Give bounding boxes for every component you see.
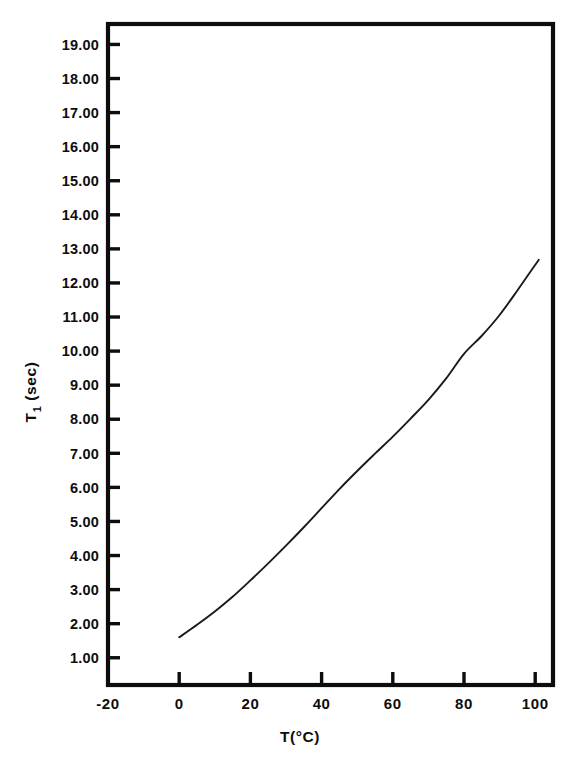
y-tick-label: 9.00 [70,377,99,393]
x-axis-title: T(°C) [280,728,320,745]
x-tick-label: 80 [455,695,473,712]
y-axis-title-unit: (sec) [22,362,39,406]
y-axis-ticks [109,44,120,657]
y-tick-label: 11.00 [63,309,100,325]
y-tick-label: 1.00 [70,650,99,666]
y-tick-label: 18.00 [62,71,99,87]
y-axis-title: T1 (sec) [22,362,43,423]
x-axis-tick-labels: 020406080100-20 [96,695,548,712]
x-tick-label: 20 [241,695,259,712]
y-tick-label: 15.00 [62,173,99,189]
x-tick-label: 100 [522,695,549,712]
chart-plot: 1.002.003.004.005.006.007.008.009.0010.0… [0,0,575,771]
y-axis-title-group: T1 (sec) [22,362,43,423]
y-tick-label: 6.00 [70,480,99,496]
x-tick-label: 0 [175,695,184,712]
axis-frame [108,24,553,685]
y-tick-label: 19.00 [62,37,99,53]
y-axis-tick-labels: 1.002.003.004.005.006.007.008.009.0010.0… [62,37,99,666]
y-tick-label: 12.00 [62,275,99,291]
y-tick-label: 10.00 [62,343,99,359]
y-tick-label: 7.00 [70,446,99,462]
y-tick-label: 14.00 [62,207,99,223]
y-axis-title-subscript: 1 [31,406,43,413]
x-axis-ticks [179,672,535,684]
x-tick-label: -20 [96,695,119,712]
y-tick-label: 13.00 [62,241,99,257]
y-tick-label: 17.00 [62,105,99,121]
y-axis-title-main: T [22,412,39,422]
y-tick-label: 5.00 [70,514,99,530]
y-tick-label: 16.00 [62,139,99,155]
y-tick-label: 8.00 [70,411,99,427]
data-series-line [179,260,539,638]
y-tick-label: 2.00 [70,616,99,632]
figure-container: 1.002.003.004.005.006.007.008.009.0010.0… [0,0,575,771]
y-tick-label: 4.00 [70,548,99,564]
y-tick-label: 3.00 [70,582,99,598]
x-tick-label: 60 [384,695,402,712]
x-tick-label: 40 [313,695,331,712]
